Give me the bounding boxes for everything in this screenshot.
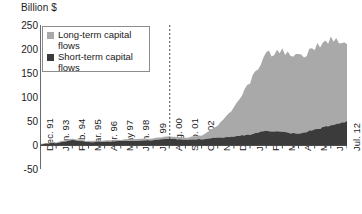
- legend-label-short-term-line2: flows: [58, 62, 80, 73]
- x-tick-label: Jul. 12: [351, 123, 362, 151]
- chart-legend: Long-term capital flows Short-term capit…: [42, 26, 150, 72]
- legend-swatch-short-term: [47, 54, 54, 61]
- legend-label-short-term-line1: Short-term capital: [58, 51, 133, 62]
- legend-label-long-term-line2: flows: [58, 40, 80, 51]
- legend-label-long-term-line1: Long-term capital: [58, 29, 131, 40]
- legend-swatch-long-term: [47, 32, 54, 39]
- legend-item-long-term: Long-term capital flows: [47, 30, 145, 51]
- legend-item-short-term: Short-term capital flows: [47, 52, 145, 73]
- legend-label-long-term: Long-term capital flows: [58, 30, 131, 51]
- legend-label-short-term: Short-term capital flows: [58, 52, 133, 73]
